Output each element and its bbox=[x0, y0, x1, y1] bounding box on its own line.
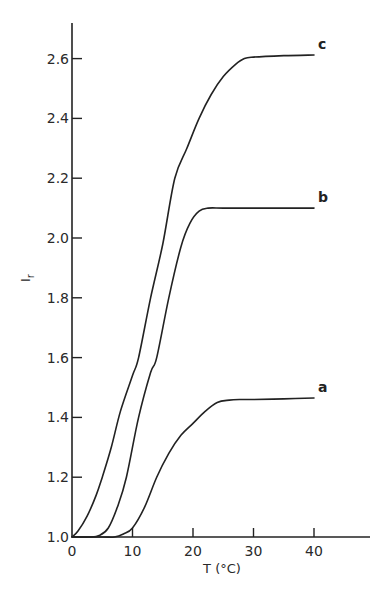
curves bbox=[72, 55, 314, 537]
y-tick-label: 2.2 bbox=[47, 170, 69, 186]
y-tick-label: 2.0 bbox=[47, 230, 69, 246]
series-a-line bbox=[72, 398, 314, 537]
y-tick-label: 2.4 bbox=[47, 110, 69, 126]
series-c-line bbox=[72, 55, 314, 537]
y-tick-label: 1.2 bbox=[47, 469, 69, 485]
x-tick-label: 10 bbox=[124, 543, 142, 559]
series-c-label: c bbox=[318, 36, 326, 52]
axes bbox=[72, 23, 370, 537]
x-tick-label: 30 bbox=[245, 543, 263, 559]
series-b-line bbox=[72, 208, 314, 537]
y-tick-label: 1.0 bbox=[47, 529, 69, 545]
x-tick-label: 20 bbox=[184, 543, 202, 559]
x-axis-title: T (°C) bbox=[202, 561, 241, 576]
y-tick-label: 1.8 bbox=[47, 290, 69, 306]
series-b-label: b bbox=[318, 189, 328, 205]
x-tick-label: 0 bbox=[68, 543, 77, 559]
y-tick-label: 1.6 bbox=[47, 350, 69, 366]
y-tick-label: 2.6 bbox=[47, 51, 69, 67]
y-axis-title: Ir bbox=[18, 273, 36, 282]
series-a-label: a bbox=[318, 379, 327, 395]
x-tick-label: 40 bbox=[305, 543, 323, 559]
labels: 0102030401.01.21.41.61.82.02.22.42.6T (°… bbox=[18, 36, 328, 576]
line-chart: 0102030401.01.21.41.61.82.02.22.42.6T (°… bbox=[0, 0, 383, 597]
y-tick-label: 1.4 bbox=[47, 409, 69, 425]
